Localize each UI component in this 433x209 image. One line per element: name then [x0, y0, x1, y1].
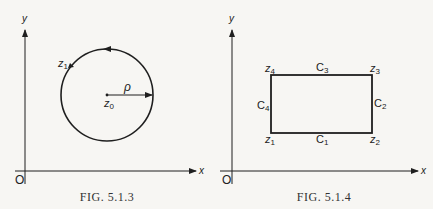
figure-canvas: y x O z1 z0 ρ FIG. 5.1.3 y x O z4 z3 z	[0, 0, 433, 209]
orientation-arrow-icon	[103, 46, 111, 52]
c2-label: C2	[374, 97, 387, 111]
c3-label: C3	[316, 61, 329, 75]
figure-5-1-3: y x O z1 z0 ρ FIG. 5.1.3	[15, 13, 205, 204]
caption-fig-5-1-3: FIG. 5.1.3	[80, 190, 134, 204]
y-axis-label: y	[228, 13, 235, 24]
z0-label: z0	[103, 97, 115, 111]
c1-label: C1	[316, 133, 329, 147]
x-axis-label: x	[420, 165, 427, 176]
c4-label: C4	[257, 99, 270, 113]
origin-label: O	[222, 173, 231, 187]
z1-label: z1	[264, 133, 276, 147]
z3-label: z3	[369, 62, 381, 76]
x-axis-label: x	[198, 165, 205, 176]
rho-label: ρ	[123, 80, 131, 94]
z1-label: z1	[57, 57, 69, 71]
y-axis-label: y	[21, 13, 28, 24]
figure-5-1-4: y x O z4 z3 z1 z2 C3 C1 C4 C2 FIG. 5.1.4	[220, 13, 427, 204]
contour-rectangle	[271, 75, 372, 133]
z2-label: z2	[369, 133, 381, 147]
z4-label: z4	[264, 62, 276, 76]
origin-label: O	[15, 173, 24, 187]
caption-fig-5-1-4: FIG. 5.1.4	[297, 190, 351, 204]
